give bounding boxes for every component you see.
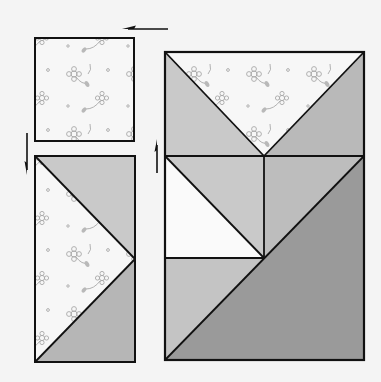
assembled-block	[165, 52, 364, 360]
diagram-svg	[0, 0, 381, 382]
floral-square-piece	[35, 38, 134, 141]
arrow-left-icon	[122, 26, 168, 30]
arrow-down-icon	[25, 133, 28, 175]
arrow-up-icon	[155, 139, 158, 173]
quilt-diagram	[0, 0, 381, 382]
rectangle-unit-piece	[35, 156, 135, 362]
